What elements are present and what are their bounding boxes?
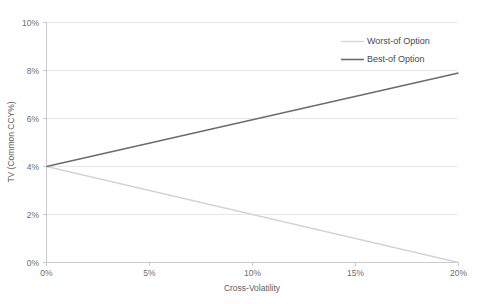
y-tick-label-8: 8% [27, 66, 40, 76]
chart-canvas: 0% 2% 4% 6% 8% 10% 0% 5% 10% 15% 20% Cro… [0, 0, 480, 304]
figure-caption-strip [0, 296, 480, 304]
x-tick-label-0: 0% [40, 268, 53, 278]
legend-item-best-of-option[interactable]: Best-of Option [341, 54, 425, 64]
legend-item-worst-of-option[interactable]: Worst-of Option [341, 36, 430, 46]
series-lines [47, 73, 459, 263]
chart-legend: Worst-of Option Best-of Option [341, 36, 430, 64]
y-tick-label-2: 2% [27, 210, 40, 220]
x-tick-label-5: 5% [143, 268, 156, 278]
x-axis-title: Cross-Volatility [224, 283, 281, 293]
y-tick-label-4: 4% [27, 162, 40, 172]
x-tick-labels: 0% 5% 10% 15% 20% [40, 268, 467, 278]
chart-figure: 0% 2% 4% 6% 8% 10% 0% 5% 10% 15% 20% Cro… [0, 0, 480, 304]
legend-label-worst-of-option: Worst-of Option [367, 36, 430, 46]
series-line-best-of-option [47, 73, 459, 167]
x-tick-label-20: 20% [450, 268, 467, 278]
y-tick-label-6: 6% [27, 114, 40, 124]
y-axis-title: TV (Common CCY%) [6, 101, 16, 182]
gridlines [46, 23, 458, 215]
y-tickmarks [43, 23, 47, 263]
x-tick-label-10: 10% [244, 268, 261, 278]
y-tick-label-10: 10% [22, 18, 39, 28]
x-tick-label-15: 15% [347, 268, 364, 278]
y-tick-labels: 0% 2% 4% 6% 8% 10% [22, 18, 39, 268]
legend-label-best-of-option: Best-of Option [367, 54, 425, 64]
x-tickmarks [47, 263, 459, 267]
y-tick-label-0: 0% [27, 258, 40, 268]
